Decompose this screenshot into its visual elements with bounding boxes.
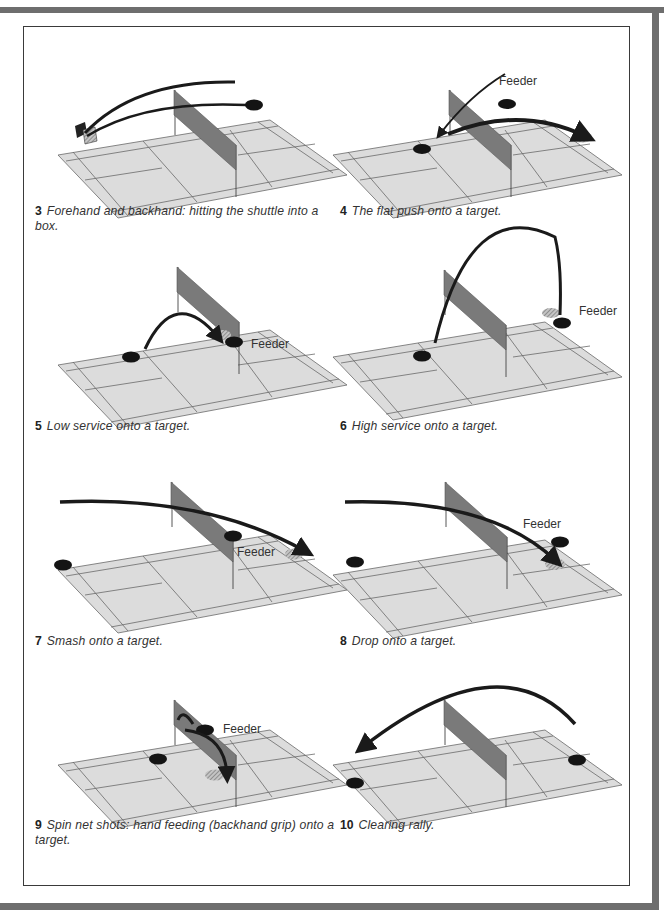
figure-4: Feeder 4The flat push onto a target.: [330, 30, 650, 245]
badminton-court-icon: [333, 322, 622, 420]
target-spot-icon: [413, 144, 431, 154]
feeder-label: Feeder: [499, 74, 537, 88]
page-border-top: [0, 7, 664, 13]
feeder-spot-icon: [224, 531, 242, 542]
feeder-spot-icon: [225, 337, 243, 348]
figure-caption: 9Spin net shots: hand feeding (backhand …: [35, 818, 335, 848]
caption-text: Drop onto a target.: [352, 634, 456, 648]
feeder-label: Feeder: [223, 722, 261, 736]
caption-text: The flat push onto a target.: [352, 204, 502, 218]
player-spot-icon: [149, 754, 167, 765]
feeder-label: Feeder: [523, 517, 561, 531]
figure-number: 4: [340, 204, 347, 218]
figure-number: 8: [340, 634, 347, 648]
court-diagram: Feeder: [330, 460, 650, 635]
court-diagram: [25, 30, 345, 205]
badminton-court-icon: [58, 330, 347, 428]
figure-8: Feeder 8Drop onto a target.: [330, 460, 650, 675]
figure-number: 7: [35, 634, 42, 648]
figure-number: 9: [35, 818, 42, 832]
court-diagram: Feeder: [330, 245, 650, 420]
feeder-spot-icon: [498, 99, 516, 109]
figure-number: 5: [35, 419, 42, 433]
figure-number: 10: [340, 818, 354, 832]
server-spot-icon: [122, 352, 140, 363]
figure-7: Feeder 7Smash onto a target.: [25, 460, 345, 675]
player-spot-icon: [346, 557, 364, 568]
feeder-label: Feeder: [579, 304, 617, 318]
caption-text: Clearing rally.: [359, 818, 435, 832]
figure-10: 10Clearing rally.: [330, 680, 650, 895]
caption-text: Smash onto a target.: [47, 634, 163, 648]
court-diagram: Feeder: [25, 245, 345, 420]
court-diagram: Feeder: [25, 460, 345, 635]
court-diagram: Feeder: [330, 30, 650, 205]
figure-9: Feeder 9Spin net shots: hand feeding (ba…: [25, 680, 345, 895]
feeder-label: Feeder: [251, 337, 289, 351]
figure-caption: 6High service onto a target.: [340, 419, 640, 434]
caption-text: Forehand and backhand: hitting the shutt…: [35, 204, 318, 233]
figure-caption: 4The flat push onto a target.: [340, 204, 640, 219]
target-spot-icon: [245, 100, 263, 111]
figure-caption: 5Low service onto a target.: [35, 419, 335, 434]
badminton-court-icon: [333, 540, 622, 638]
server-spot-icon: [413, 351, 431, 362]
figure-number: 6: [340, 419, 347, 433]
caption-text: Low service onto a target.: [47, 419, 190, 433]
feeder-label: Feeder: [237, 545, 275, 559]
landing-zone-icon: [542, 308, 560, 318]
figure-caption: 7Smash onto a target.: [35, 634, 335, 649]
figure-caption: 8Drop onto a target.: [340, 634, 640, 649]
figure-6: Feeder 6High service onto a target.: [330, 245, 650, 460]
player-spot-icon: [54, 560, 72, 571]
figure-number: 3: [35, 204, 42, 218]
feeder-spot-icon: [553, 318, 571, 329]
page-border-right: [652, 7, 659, 905]
landing-zone-icon: [205, 770, 225, 781]
player-spot-icon: [346, 778, 364, 789]
feeder-spot-icon: [551, 537, 569, 548]
caption-text: High service onto a target.: [352, 419, 498, 433]
caption-text: Spin net shots: hand feeding (backhand g…: [35, 818, 334, 847]
figure-5: Feeder 5Low service onto a target.: [25, 245, 345, 460]
figure-caption: 3Forehand and backhand: hitting the shut…: [35, 204, 335, 234]
figure-3: 3Forehand and backhand: hitting the shut…: [25, 30, 345, 245]
figure-caption: 10Clearing rally.: [340, 818, 640, 833]
player-spot-icon: [568, 755, 586, 766]
page-border-bottom: [0, 903, 659, 910]
